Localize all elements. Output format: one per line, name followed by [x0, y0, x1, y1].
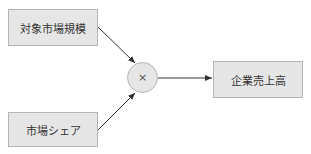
node-company-revenue: 企業売上高	[213, 61, 303, 98]
node-label: 対象市場規模	[20, 20, 86, 36]
node-label: 市場シェア	[26, 122, 81, 138]
arrow-market-size-to-multiply	[98, 27, 135, 63]
multiply-operator-node: ×	[127, 62, 158, 93]
node-target-market-size: 対象市場規模	[8, 9, 98, 46]
node-market-share: 市場シェア	[8, 112, 98, 147]
arrow-share-to-multiply	[98, 93, 135, 130]
node-label: 企業売上高	[231, 72, 286, 88]
multiply-icon: ×	[138, 71, 147, 84]
